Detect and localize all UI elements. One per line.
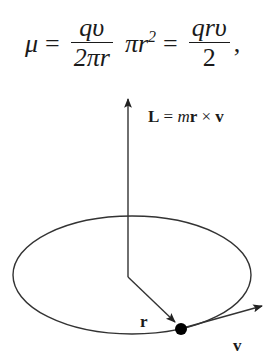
velocity-vector (183, 306, 262, 328)
orbit-diagram (0, 0, 276, 361)
equals: = (159, 107, 177, 126)
angular-momentum-label: L = mr × v (148, 107, 224, 127)
mass-symbol: m (177, 107, 189, 126)
radius-vector (128, 277, 175, 322)
L-symbol: L (148, 107, 159, 126)
velocity-label: v (233, 336, 242, 356)
charged-particle (175, 323, 187, 335)
circular-orbit (13, 216, 251, 334)
radius-label: r (140, 312, 148, 332)
cross-symbol: × (197, 107, 215, 126)
v-symbol: v (215, 107, 224, 126)
